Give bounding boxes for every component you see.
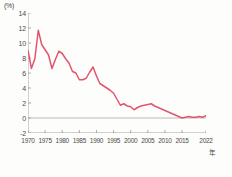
- x-axis-unit-label: 年: [209, 147, 216, 157]
- y-tick-label: 14: [6, 10, 26, 17]
- x-tick-label: 2000: [124, 137, 137, 144]
- y-axis-tick-labels: 14121086420-2: [2, 13, 26, 133]
- y-tick-label: 12: [6, 25, 26, 32]
- x-axis-tick-labels: 1970197519801985199019952000200520102015…: [0, 137, 232, 149]
- x-tick-label: 1985: [73, 137, 86, 144]
- x-tick-label: 2015: [175, 137, 188, 144]
- x-tick-label: 1970: [21, 137, 34, 144]
- y-tick-label: 8: [6, 55, 26, 62]
- y-tick-label: -2: [6, 130, 26, 137]
- y-tick-label: 4: [6, 85, 26, 92]
- x-tick-label: 2022: [199, 137, 212, 144]
- x-tick-label: 1975: [38, 137, 51, 144]
- plot-area: [28, 13, 206, 133]
- x-tick-label: 1990: [90, 137, 103, 144]
- y-tick-label: 0: [6, 115, 26, 122]
- series-line: [28, 30, 206, 118]
- y-tick-label: 6: [6, 70, 26, 77]
- line-chart: (%) 14121086420-2 1970197519801985199019…: [0, 0, 232, 177]
- y-tick-label: 10: [6, 40, 26, 47]
- x-tick-label: 2005: [141, 137, 154, 144]
- y-tick-label: 2: [6, 100, 26, 107]
- data-series: [28, 30, 206, 118]
- chart-svg: [28, 13, 206, 133]
- x-tick-label: 1995: [107, 137, 120, 144]
- x-tick-label: 2010: [158, 137, 171, 144]
- axis-lines: [28, 13, 206, 133]
- x-tick-label: 1980: [56, 137, 69, 144]
- y-axis-unit-label: (%): [4, 2, 14, 9]
